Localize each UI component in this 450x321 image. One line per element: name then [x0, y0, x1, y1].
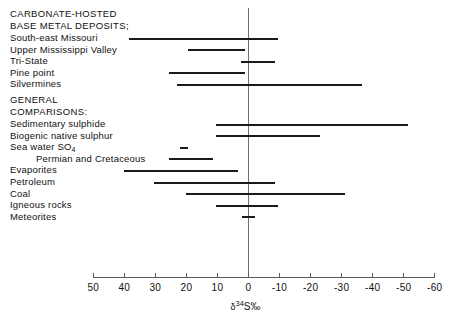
range-bar: [169, 72, 245, 74]
x-axis-tick: [186, 273, 187, 277]
x-axis-tick-label: -50: [396, 282, 411, 293]
row-label: Igneous rocks: [10, 199, 72, 210]
group-heading-line1: GENERAL: [10, 94, 58, 105]
x-axis-tick-label: 40: [118, 282, 130, 293]
x-axis-tick-label: -10: [272, 282, 287, 293]
group-heading-line1: CARBONATE-HOSTED: [10, 8, 117, 19]
axis-title-rest: S‰: [244, 301, 261, 312]
row-label: Silvermines: [10, 78, 61, 89]
row-label: Coal: [10, 188, 30, 199]
row-label: Petroleum: [10, 176, 55, 187]
range-bar: [129, 38, 278, 40]
x-axis-tick-label: 0: [246, 282, 252, 293]
range-bar: [177, 84, 362, 86]
x-axis-tick-label: -30: [334, 282, 349, 293]
row-label-text: Sea water SO: [10, 141, 72, 152]
x-axis-title: δ34S‰: [231, 299, 261, 312]
row-label: Evaporites: [10, 164, 57, 175]
range-bar: [216, 124, 409, 126]
row-label: Biogenic native sulphur: [10, 130, 113, 141]
group-heading-carbonate-hosted: CARBONATE-HOSTED BASE METAL DEPOSITS;: [10, 8, 129, 31]
group-heading-general-comparisons: GENERAL COMPARISONS:: [10, 94, 87, 117]
x-axis-tick: [403, 273, 404, 277]
axis-title-superscript: 34: [236, 299, 244, 308]
row-label: Tri-State: [10, 55, 48, 66]
x-axis-tick: [341, 273, 342, 277]
x-axis-tick: [434, 273, 435, 277]
group-heading-line2: BASE METAL DEPOSITS;: [10, 20, 129, 32]
x-axis-tick-label: 20: [181, 282, 193, 293]
x-axis-tick-label: 30: [149, 282, 161, 293]
x-axis-tick: [124, 273, 125, 277]
row-label: Sea water SO4: [10, 141, 76, 153]
range-bar: [241, 61, 275, 63]
range-bar: [242, 216, 254, 218]
range-bar: [180, 147, 188, 149]
x-axis-tick: [217, 273, 218, 277]
row-label: South-east Missouri: [10, 32, 98, 43]
figure-sulphur-isotope-ranges: CARBONATE-HOSTED BASE METAL DEPOSITS; GE…: [0, 0, 450, 321]
range-bar: [154, 182, 275, 184]
zero-reference-line: [248, 8, 249, 277]
x-axis-tick-label: 50: [87, 282, 99, 293]
group-heading-line2: COMPARISONS:: [10, 106, 87, 118]
x-axis-tick: [248, 273, 249, 277]
range-bar: [216, 135, 320, 137]
row-label: Upper Mississippi Valley: [10, 44, 117, 55]
range-bar: [216, 205, 278, 207]
x-axis-tick-label: -20: [303, 282, 318, 293]
row-label: Meteorites: [10, 211, 56, 222]
x-axis-tick: [93, 273, 94, 277]
row-label: Permian and Cretaceous: [36, 153, 146, 164]
row-label: Sedimentary sulphide: [10, 118, 105, 129]
range-bar: [124, 170, 237, 172]
x-axis-tick-label: -60: [427, 282, 442, 293]
x-axis-tick: [310, 273, 311, 277]
x-axis-tick: [155, 273, 156, 277]
range-bar: [169, 158, 212, 160]
range-bar: [186, 193, 344, 195]
range-bar: [188, 49, 245, 51]
x-axis-tick-label: -40: [365, 282, 380, 293]
x-axis-tick: [372, 273, 373, 277]
x-axis-line: [93, 277, 435, 278]
x-axis-tick: [279, 273, 280, 277]
row-label: Pine point: [10, 67, 54, 78]
x-axis-tick-label: 10: [212, 282, 224, 293]
